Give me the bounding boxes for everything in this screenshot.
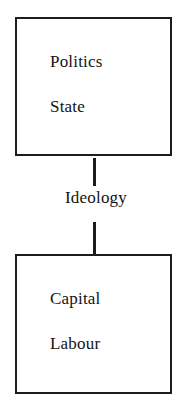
connector-line-lower	[93, 222, 96, 254]
node-box-capital-labour: Capital Labour	[15, 254, 172, 394]
node-label-labour: Labour	[50, 335, 100, 352]
connector-line-upper	[93, 158, 96, 186]
node-label-state: State	[50, 98, 85, 115]
edge-label-ideology: Ideology	[0, 189, 192, 206]
node-box-politics-state: Politics State	[15, 17, 172, 156]
node-label-capital: Capital	[50, 290, 101, 307]
diagram-canvas: Politics State Ideology Capital Labour	[0, 0, 192, 409]
node-label-politics: Politics	[50, 53, 103, 70]
